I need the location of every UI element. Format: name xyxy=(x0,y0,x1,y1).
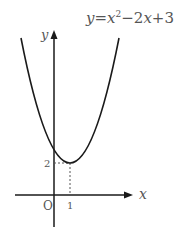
x-axis-label: x xyxy=(139,186,147,202)
y-tick-2: 2 xyxy=(44,158,50,169)
origin-label: O xyxy=(43,199,53,213)
parabola-graph: y=x2−2x+3 x y O 2 1 xyxy=(0,0,175,240)
equation-label: y=x2−2x+3 xyxy=(85,9,174,27)
x-axis-arrow-icon xyxy=(124,192,133,199)
parabola-curve xyxy=(21,38,119,163)
y-axis-arrow-icon xyxy=(51,30,58,39)
x-tick-1: 1 xyxy=(67,200,73,211)
y-axis-label: y xyxy=(40,27,49,42)
